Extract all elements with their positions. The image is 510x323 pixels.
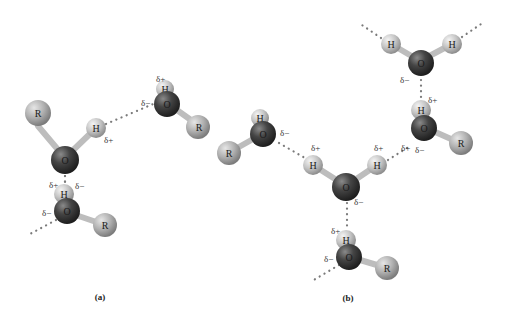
panel-b: R H O δ− H H O δ+ δ+ δ− H H [217,24,481,303]
atom-label: O [342,182,349,193]
hydrogen-bond [279,143,305,158]
panel-label-b: (b) [343,293,354,303]
atom-label: O [420,123,427,134]
partial-charge-minus: δ− [280,128,289,138]
atom-label: H [387,39,394,50]
atom-label: O [259,129,266,140]
partial-charge-plus: δ+ [401,143,410,153]
water-molecule-center: H H O [303,155,387,201]
partial-charge-minus: δ− [75,181,84,191]
hydrogen-bond [362,25,381,38]
alcohol-molecule-bottom: R H O [336,230,399,280]
hydrogen-bond [312,265,339,281]
alcohol-molecule-3: R H O [54,184,117,237]
atom-label: R [226,148,233,159]
partial-charge-plus: δ+ [428,95,437,105]
partial-charge-minus: δ− [42,208,51,218]
partial-charge-minus: δ− [141,98,150,108]
atom-label: H [309,160,316,171]
atom-label: H [373,160,380,171]
partial-charge-plus: δ+ [156,74,165,84]
atom-label: H [92,123,99,134]
atom-label: R [196,122,203,133]
alcohol-molecule-1: R H O [25,100,106,174]
atom-label: O [63,206,70,217]
alcohol-molecule-2: R H O [154,80,210,139]
alcohol-molecule-left: R H O [217,109,276,165]
atom-label: R [458,138,465,149]
water-molecule-top: H H O [381,34,462,76]
partial-charge-minus: δ− [324,254,333,264]
atom-label: R [35,108,42,119]
panel-a: R H O δ+ δ− R H O δ+ δ− R H O [25,74,210,302]
hydrogen-bond [462,24,481,37]
partial-charge-plus: δ+ [374,143,383,153]
hydrogen-bond [30,220,56,234]
atom-label: H [448,39,455,50]
atom-label: O [345,252,352,263]
partial-charge-plus: δ+ [331,226,340,236]
atom-label: O [163,99,170,110]
partial-charge-plus: δ+ [311,143,320,153]
panel-label-a: (a) [95,292,106,302]
partial-charge-minus: δ− [415,145,424,155]
hydrogen-bonding-diagram: R H O δ+ δ− R H O δ+ δ− R H O [0,0,510,323]
partial-charge-minus: δ− [400,75,409,85]
atom-label: O [417,58,424,69]
atom-label: R [102,220,109,231]
partial-charge-minus: δ− [354,197,363,207]
partial-charge-plus: δ+ [49,180,58,190]
partial-charge-plus: δ+ [104,135,113,145]
atom-label: O [61,155,68,166]
atom-label: H [417,105,424,116]
atom-label: R [384,263,391,274]
